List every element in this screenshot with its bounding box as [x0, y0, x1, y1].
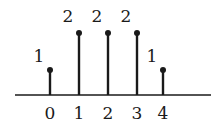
tick-label: 4 [158, 103, 169, 123]
stem-dot-icon [105, 30, 111, 36]
stem-value-label: 1 [34, 46, 45, 66]
stem-dot-icon [47, 67, 53, 73]
stem-value-label: 2 [63, 6, 74, 26]
tick-label: 0 [45, 103, 56, 123]
tick-label: 3 [132, 103, 143, 123]
stem-value-label: 2 [121, 6, 132, 26]
stem-plot: 1021222314 [0, 0, 219, 130]
tick-label: 1 [74, 103, 85, 123]
stem-value-label: 2 [92, 6, 103, 26]
stem-dot-icon [134, 30, 140, 36]
stem-dot-icon [76, 30, 82, 36]
stem-dot-icon [160, 67, 166, 73]
stems-group: 1021222314 [34, 6, 169, 123]
tick-label: 2 [103, 103, 114, 123]
stem-value-label: 1 [147, 46, 158, 66]
